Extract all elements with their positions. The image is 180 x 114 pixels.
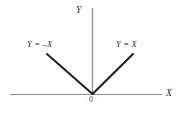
y-axis-label: Y (76, 6, 81, 16)
curve-left-branch (47, 54, 93, 94)
curve-label-right: Y = X (116, 40, 137, 49)
curve-label-left: Y = –X (27, 40, 52, 49)
origin-label: 0 (89, 96, 93, 104)
curve-right-branch (93, 54, 134, 94)
function-graph-figure: Y X 0 Y = –X Y = X (0, 0, 180, 114)
x-axis-label: X (166, 89, 172, 99)
